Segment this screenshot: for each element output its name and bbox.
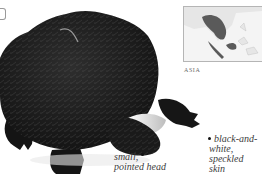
map-region-label: ASIA bbox=[184, 67, 200, 73]
range-map bbox=[183, 6, 262, 62]
annotation-small-pointed-head: small, pointed head bbox=[114, 152, 184, 172]
annotation-speckled-skin: black-and- white, speckled skin bbox=[209, 134, 262, 174]
asia-map-icon bbox=[184, 7, 262, 61]
